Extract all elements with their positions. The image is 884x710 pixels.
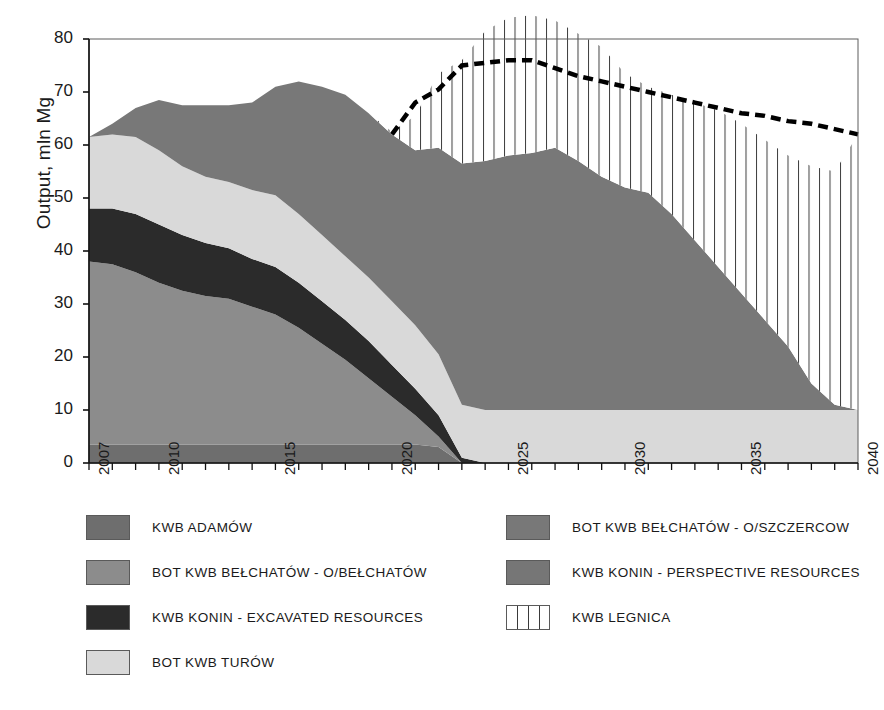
- legend-column-left: KWB ADAMÓWBOT KWB BEŁCHATÓW - O/BEŁCHATÓ…: [86, 505, 427, 685]
- legend-column-right: BOT KWB BEŁCHATÓW - O/SZCZERCOWKWB KONIN…: [506, 505, 860, 640]
- legend-item[interactable]: BOT KWB TURÓW: [86, 640, 427, 685]
- legend-swatch-icon: [86, 560, 130, 585]
- chart-legend: KWB ADAMÓWBOT KWB BEŁCHATÓW - O/BEŁCHATÓ…: [0, 505, 884, 710]
- legend-swatch-icon: [506, 560, 550, 585]
- legend-swatch-icon: [506, 515, 550, 540]
- x-tick-label: 2040: [864, 442, 881, 475]
- legend-swatch-icon: [86, 515, 130, 540]
- legend-label: KWB KONIN - EXCAVATED RESOURCES: [152, 610, 423, 625]
- chart-canvas: Output, mln Mg 0102030405060708020072010…: [0, 0, 884, 500]
- legend-label: BOT KWB TURÓW: [152, 655, 274, 670]
- legend-swatch-icon: [86, 650, 130, 675]
- x-tick-label: 2007: [95, 442, 112, 475]
- legend-swatch-icon: [86, 605, 130, 630]
- legend-item[interactable]: KWB KONIN - PERSPECTIVE RESOURCES: [506, 550, 860, 595]
- y-tick-label: 10: [33, 399, 73, 419]
- x-tick-label: 2030: [631, 442, 648, 475]
- legend-item[interactable]: BOT KWB BEŁCHATÓW - O/BEŁCHATÓW: [86, 550, 427, 595]
- y-tick-label: 0: [33, 452, 73, 472]
- y-tick-label: 70: [33, 81, 73, 101]
- y-tick-label: 30: [33, 293, 73, 313]
- legend-item[interactable]: KWB LEGNICA: [506, 595, 860, 640]
- stacked-area-plot: [0, 0, 884, 500]
- legend-label: KWB KONIN - PERSPECTIVE RESOURCES: [572, 565, 860, 580]
- legend-item[interactable]: KWB KONIN - EXCAVATED RESOURCES: [86, 595, 427, 640]
- legend-label: KWB ADAMÓW: [152, 520, 253, 535]
- legend-item[interactable]: KWB ADAMÓW: [86, 505, 427, 550]
- x-tick-label: 2010: [165, 442, 182, 475]
- y-tick-label: 80: [33, 28, 73, 48]
- legend-item[interactable]: BOT KWB BEŁCHATÓW - O/SZCZERCOW: [506, 505, 860, 550]
- y-tick-label: 60: [33, 134, 73, 154]
- chart-page: Output, mln Mg 0102030405060708020072010…: [0, 0, 884, 710]
- y-tick-label: 20: [33, 346, 73, 366]
- legend-swatch-icon: [506, 605, 550, 630]
- x-tick-label: 2025: [514, 442, 531, 475]
- y-tick-label: 50: [33, 187, 73, 207]
- x-tick-label: 2020: [398, 442, 415, 475]
- y-tick-label: 40: [33, 240, 73, 260]
- legend-label: BOT KWB BEŁCHATÓW - O/SZCZERCOW: [572, 520, 849, 535]
- x-tick-label: 2015: [281, 442, 298, 475]
- legend-label: BOT KWB BEŁCHATÓW - O/BEŁCHATÓW: [152, 565, 427, 580]
- x-tick-label: 2035: [747, 442, 764, 475]
- legend-label: KWB LEGNICA: [572, 610, 671, 625]
